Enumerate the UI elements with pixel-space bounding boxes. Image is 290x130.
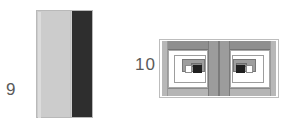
core-half-left bbox=[160, 40, 219, 97]
winding-layer-3 bbox=[191, 63, 202, 67]
winding-layer-1 bbox=[174, 55, 206, 83]
winding-layer-1 bbox=[232, 55, 264, 83]
conductor-core bbox=[236, 65, 245, 73]
slab-dark-layer bbox=[72, 11, 92, 117]
winding-notch bbox=[185, 65, 192, 73]
figure-10-e-core-cross-section bbox=[159, 39, 279, 98]
slab-light-layer bbox=[37, 11, 71, 117]
figure-label-9: 9 bbox=[6, 80, 16, 100]
figure-9-layered-slab bbox=[36, 10, 93, 118]
slab-edge-highlight bbox=[38, 12, 41, 118]
core-winding-window bbox=[230, 50, 270, 88]
winding-layer-3 bbox=[236, 63, 247, 67]
conductor-core bbox=[193, 65, 202, 73]
winding-notch bbox=[246, 65, 253, 73]
core-half-right bbox=[219, 40, 278, 97]
winding-layer-2 bbox=[233, 59, 256, 72]
core-center-limb bbox=[208, 41, 219, 96]
core-center-limb bbox=[219, 41, 230, 96]
core-outer-limb bbox=[270, 41, 276, 96]
winding-layer-2 bbox=[182, 59, 205, 72]
figure-canvas: 9 10 bbox=[0, 0, 290, 130]
core-winding-window bbox=[168, 50, 208, 88]
figure-label-10: 10 bbox=[135, 55, 156, 75]
